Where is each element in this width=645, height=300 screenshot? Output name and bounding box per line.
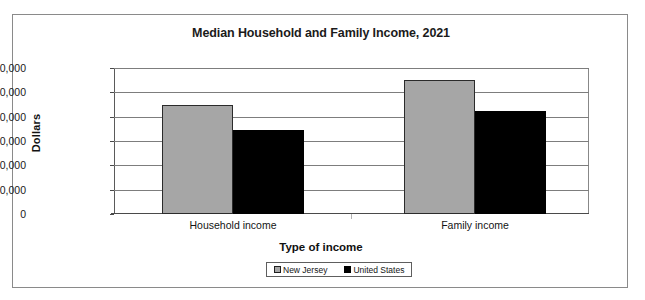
- y-tick-label: 100,000: [0, 86, 26, 98]
- y-tick-label: 0: [0, 208, 26, 220]
- y-tick-label: 20,000: [0, 184, 26, 196]
- y-axis-tick: [110, 165, 114, 166]
- category-label-household-income: Household income: [190, 219, 277, 231]
- y-axis-tick: [110, 117, 114, 118]
- y-tick-label: 40,000: [0, 159, 26, 171]
- chart-figure-frame: Median Household and Family Income, 2021…: [12, 14, 628, 288]
- bar-new-jersey-household-income: [162, 105, 233, 215]
- legend-entry-united-states[interactable]: United States: [344, 265, 404, 275]
- y-axis-tick: [110, 92, 114, 93]
- y-axis-tick: [110, 214, 114, 215]
- y-axis-tick: [110, 141, 114, 142]
- category-label-family-income: Family income: [441, 219, 509, 231]
- chart-legend: New JerseyUnited States: [266, 262, 412, 277]
- bar-united-states-household-income: [233, 130, 304, 214]
- y-tick-label: 60,000: [0, 135, 26, 147]
- gray-square-swatch: [274, 266, 281, 273]
- y-tick-label: 120,000: [0, 62, 26, 74]
- x-axis-title: Type of income: [13, 241, 629, 253]
- y-axis-tick: [110, 190, 114, 191]
- y-tick-label-list: 020,00040,00060,00080,000100,000120,000: [34, 68, 106, 214]
- y-tick-label: 80,000: [0, 111, 26, 123]
- black-square-swatch: [344, 266, 351, 273]
- chart-title: Median Household and Family Income, 2021: [13, 26, 629, 40]
- gridline: [114, 68, 589, 69]
- legend-label: New Jersey: [283, 265, 327, 275]
- bar-new-jersey-family-income: [404, 80, 475, 214]
- x-axis-category-labels: Household incomeFamily income: [114, 219, 589, 235]
- bar-united-states-family-income: [475, 111, 546, 214]
- gridline: [114, 92, 589, 93]
- plot-area: 020,00040,00060,00080,000100,000120,000: [114, 68, 589, 214]
- y-axis-tick: [110, 68, 114, 69]
- legend-label: United States: [353, 265, 404, 275]
- legend-entry-new-jersey[interactable]: New Jersey: [274, 265, 327, 275]
